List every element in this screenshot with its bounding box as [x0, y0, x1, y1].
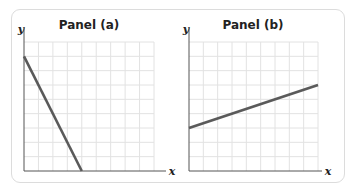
grid	[24, 42, 154, 171]
panel-a: Panel (a)yx	[17, 18, 176, 178]
x-axis-label: x	[168, 165, 176, 178]
chart-canvas: Panel (a)yxPanel (b)yx	[0, 0, 360, 187]
x-axis-label: x	[324, 165, 332, 178]
panel-title: Panel (b)	[222, 18, 283, 32]
panel-b: Panel (b)yx	[182, 18, 332, 178]
data-line	[189, 85, 318, 128]
panel-title: Panel (a)	[59, 18, 120, 32]
